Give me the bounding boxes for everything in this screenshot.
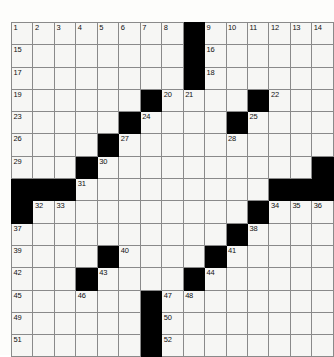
letter-cell[interactable]: 19 [12,89,33,111]
letter-cell[interactable]: 26 [12,134,33,156]
letter-cell[interactable] [119,335,140,357]
letter-cell[interactable]: 49 [12,312,33,334]
letter-cell[interactable] [140,201,161,223]
letter-cell[interactable] [76,134,97,156]
letter-cell[interactable] [247,335,268,357]
letter-cell[interactable] [119,67,140,89]
letter-cell[interactable]: 48 [183,290,204,312]
letter-cell[interactable] [247,290,268,312]
letter-cell[interactable]: 11 [247,23,268,45]
letter-cell[interactable] [54,156,75,178]
letter-cell[interactable] [54,67,75,89]
letter-cell[interactable] [140,268,161,290]
letter-cell[interactable] [97,312,118,334]
letter-cell[interactable]: 5 [97,23,118,45]
letter-cell[interactable] [162,268,183,290]
letter-cell[interactable] [97,45,118,67]
letter-cell[interactable] [97,179,118,201]
letter-cell[interactable] [162,112,183,134]
letter-cell[interactable]: 22 [269,89,290,111]
letter-cell[interactable]: 45 [12,290,33,312]
letter-cell[interactable]: 34 [269,201,290,223]
letter-cell[interactable] [226,290,247,312]
letter-cell[interactable] [183,312,204,334]
letter-cell[interactable]: 2 [33,23,54,45]
letter-cell[interactable] [76,312,97,334]
letter-cell[interactable] [205,312,226,334]
letter-cell[interactable] [183,112,204,134]
letter-cell[interactable] [54,312,75,334]
letter-cell[interactable] [312,45,334,67]
letter-cell[interactable] [33,112,54,134]
letter-cell[interactable] [247,134,268,156]
letter-cell[interactable] [76,335,97,357]
letter-cell[interactable]: 32 [33,201,54,223]
letter-cell[interactable] [54,245,75,267]
letter-cell[interactable] [54,134,75,156]
letter-cell[interactable]: 20 [162,89,183,111]
letter-cell[interactable] [269,268,290,290]
letter-cell[interactable] [269,156,290,178]
letter-cell[interactable] [119,201,140,223]
letter-cell[interactable] [290,67,311,89]
letter-cell[interactable] [33,156,54,178]
letter-cell[interactable] [226,268,247,290]
letter-cell[interactable]: 39 [12,245,33,267]
letter-cell[interactable]: 1 [12,23,33,45]
letter-cell[interactable] [290,112,311,134]
letter-cell[interactable] [119,268,140,290]
letter-cell[interactable]: 29 [12,156,33,178]
letter-cell[interactable] [290,335,311,357]
letter-cell[interactable]: 51 [12,335,33,357]
letter-cell[interactable] [247,268,268,290]
letter-cell[interactable] [312,134,334,156]
letter-cell[interactable]: 15 [12,45,33,67]
letter-cell[interactable] [183,156,204,178]
letter-cell[interactable] [226,335,247,357]
letter-cell[interactable] [97,201,118,223]
letter-cell[interactable] [140,179,161,201]
letter-cell[interactable] [162,134,183,156]
letter-cell[interactable] [162,156,183,178]
letter-cell[interactable] [76,245,97,267]
letter-cell[interactable] [119,156,140,178]
letter-cell[interactable] [290,312,311,334]
letter-cell[interactable]: 28 [226,134,247,156]
letter-cell[interactable] [183,335,204,357]
letter-cell[interactable]: 36 [312,201,334,223]
letter-cell[interactable] [33,312,54,334]
letter-cell[interactable] [269,245,290,267]
letter-cell[interactable] [97,335,118,357]
letter-cell[interactable] [205,290,226,312]
letter-cell[interactable]: 17 [12,67,33,89]
letter-cell[interactable] [290,245,311,267]
letter-cell[interactable] [269,290,290,312]
letter-cell[interactable]: 25 [247,112,268,134]
letter-cell[interactable] [97,67,118,89]
letter-cell[interactable] [226,156,247,178]
letter-cell[interactable] [119,45,140,67]
letter-cell[interactable] [312,89,334,111]
letter-cell[interactable] [162,245,183,267]
letter-cell[interactable]: 33 [54,201,75,223]
letter-cell[interactable] [54,290,75,312]
letter-cell[interactable] [119,179,140,201]
letter-cell[interactable] [269,134,290,156]
letter-cell[interactable] [290,268,311,290]
letter-cell[interactable]: 14 [312,23,334,45]
letter-cell[interactable]: 12 [269,23,290,45]
letter-cell[interactable] [97,290,118,312]
crossword-grid[interactable]: 1234567891011121314151617181920212223242… [11,22,334,357]
letter-cell[interactable] [312,67,334,89]
letter-cell[interactable] [269,67,290,89]
letter-cell[interactable] [183,201,204,223]
letter-cell[interactable] [290,134,311,156]
letter-cell[interactable] [54,335,75,357]
letter-cell[interactable]: 42 [12,268,33,290]
letter-cell[interactable] [33,67,54,89]
letter-cell[interactable] [226,45,247,67]
letter-cell[interactable] [312,268,334,290]
letter-cell[interactable] [269,312,290,334]
letter-cell[interactable] [226,201,247,223]
letter-cell[interactable]: 46 [76,290,97,312]
